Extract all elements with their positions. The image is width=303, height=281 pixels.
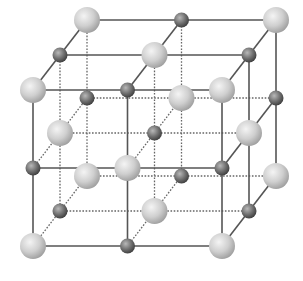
large-atom-icon — [263, 7, 289, 33]
large-atom-icon — [209, 233, 235, 259]
small-atom-icon — [242, 48, 257, 63]
small-atom-icon — [26, 161, 41, 176]
large-atom-icon — [20, 233, 46, 259]
small-atom-icon — [120, 83, 135, 98]
small-atom-icon — [120, 239, 135, 254]
small-atom-icon — [174, 13, 189, 28]
large-atom-icon — [47, 120, 73, 146]
crystal-lattice-diagram — [0, 0, 303, 281]
small-atom-icon — [269, 91, 284, 106]
small-atom-icon — [53, 48, 68, 63]
small-atom-icon — [242, 204, 257, 219]
large-atom-icon — [20, 77, 46, 103]
large-atom-icon — [169, 85, 195, 111]
large-atom-icon — [74, 7, 100, 33]
lattice-atoms — [20, 7, 289, 259]
small-atom-icon — [80, 91, 95, 106]
large-atom-icon — [209, 77, 235, 103]
small-atom-icon — [215, 161, 230, 176]
small-atom-icon — [53, 204, 68, 219]
large-atom-icon — [115, 155, 141, 181]
large-atom-icon — [142, 42, 168, 68]
large-atom-icon — [263, 163, 289, 189]
small-atom-icon — [174, 169, 189, 184]
large-atom-icon — [142, 198, 168, 224]
large-atom-icon — [74, 163, 100, 189]
small-atom-icon — [147, 126, 162, 141]
large-atom-icon — [236, 120, 262, 146]
